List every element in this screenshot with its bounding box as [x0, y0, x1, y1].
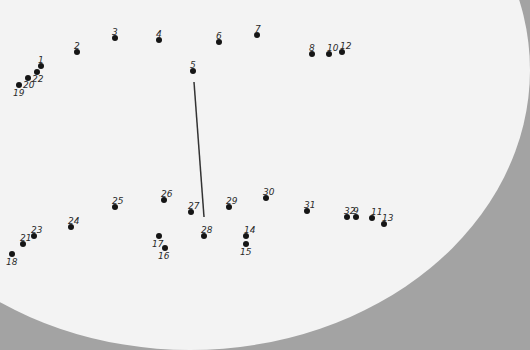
dot-label-24: 24: [68, 217, 79, 226]
dot-label-19: 19: [13, 89, 24, 98]
dot-label-18: 18: [6, 258, 17, 267]
dot-label-31: 31: [304, 201, 315, 210]
dot-label-11: 11: [371, 208, 382, 217]
dot-label-4: 4: [156, 30, 162, 39]
dot-label-2: 2: [74, 42, 80, 51]
dot-label-25: 25: [112, 197, 123, 206]
dot-label-26: 26: [161, 190, 172, 199]
dot-label-6: 6: [216, 32, 222, 41]
dot-label-7: 7: [255, 25, 261, 34]
dot-label-22: 22: [32, 75, 43, 84]
dot-label-12: 12: [340, 42, 351, 51]
dot-label-21: 21: [20, 234, 31, 243]
dot-label-27: 27: [188, 202, 199, 211]
dot-label-28: 28: [201, 226, 212, 235]
dot-label-14: 14: [244, 226, 255, 235]
dot-label-3: 3: [112, 28, 118, 37]
dot-label-5: 5: [190, 61, 196, 70]
dot-label-17: 17: [152, 240, 163, 249]
dot-label-13: 13: [382, 214, 393, 223]
dot-label-32: 32: [344, 207, 355, 216]
dot-label-10: 10: [327, 44, 338, 53]
dot-label-1: 1: [38, 56, 44, 65]
dot-label-8: 8: [309, 44, 315, 53]
dot-label-15: 15: [240, 248, 251, 257]
dot-label-23: 23: [31, 226, 42, 235]
dot-label-16: 16: [158, 252, 169, 261]
dot-label-30: 30: [263, 188, 274, 197]
dot-label-29: 29: [226, 197, 237, 206]
